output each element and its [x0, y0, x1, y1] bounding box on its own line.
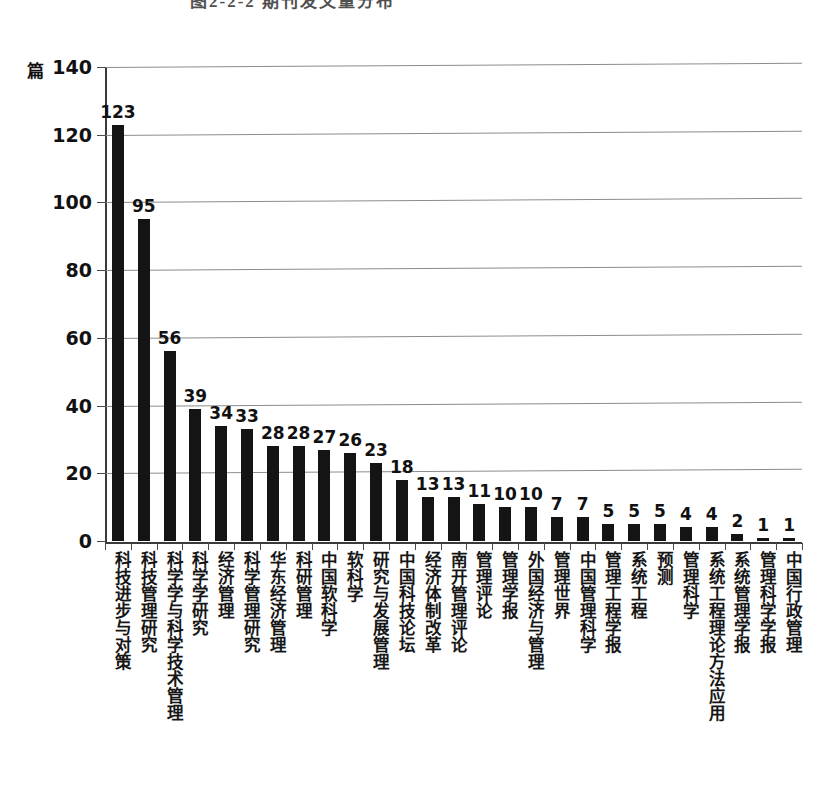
x-tick-mark	[131, 543, 132, 550]
x-tick-mark	[466, 543, 467, 550]
gridline	[105, 266, 802, 271]
bar-value-label: 5	[654, 501, 666, 521]
y-tick-label: 20	[66, 462, 92, 484]
bar: 7	[577, 517, 589, 541]
bar: 10	[499, 507, 511, 541]
y-tick-mark	[97, 270, 106, 271]
x-axis-label: 系统管理学报	[726, 551, 748, 653]
gridline	[105, 334, 802, 339]
x-axis-label: 管理工程学报	[597, 551, 619, 653]
y-tick-label: 120	[52, 124, 92, 146]
bar-value-label: 13	[416, 474, 440, 494]
x-tick-mark	[492, 543, 493, 550]
x-axis-label: 经济体制改革	[417, 551, 439, 653]
bar: 28	[293, 446, 305, 541]
bar: 5	[628, 524, 640, 541]
x-tick-mark	[234, 543, 235, 550]
bar-value-label: 33	[235, 406, 259, 426]
x-tick-mark	[750, 543, 751, 550]
bar-value-label: 56	[158, 328, 182, 348]
bar-value-label: 4	[680, 504, 692, 524]
x-axis-label: 管理学报	[494, 551, 516, 619]
x-tick-mark	[105, 543, 106, 550]
y-tick-label: 40	[66, 395, 92, 417]
x-tick-mark	[312, 543, 313, 550]
x-tick-mark	[647, 543, 648, 550]
x-axis-line	[105, 542, 802, 544]
y-tick-label: 0	[79, 530, 92, 552]
figure-caption: 图2-2-2 期刊发文量分布	[190, 0, 395, 12]
y-tick-mark	[97, 473, 106, 474]
bar: 5	[602, 524, 614, 541]
bar: 95	[138, 219, 150, 541]
bar-value-label: 27	[313, 427, 337, 447]
bar-value-label: 1	[783, 515, 795, 535]
x-axis-label: 科学学与科学技术管理	[159, 551, 181, 721]
x-axis-label: 预测	[649, 551, 671, 585]
bar-value-label: 34	[209, 403, 233, 423]
bar-value-label: 11	[467, 481, 491, 501]
bar: 28	[267, 446, 279, 541]
gridline	[105, 63, 802, 68]
x-tick-mark	[260, 543, 261, 550]
y-tick-mark	[97, 406, 106, 407]
x-axis-label: 中国管理科学	[572, 551, 594, 653]
x-tick-mark	[570, 543, 571, 550]
x-tick-mark	[725, 543, 726, 550]
bar-value-label: 123	[100, 102, 136, 122]
bar: 10	[525, 507, 537, 541]
x-axis-category-labels: 科技进步与对策科技管理研究科学学与科学技术管理科学学研究经济管理科学管理研究华东…	[105, 551, 802, 791]
y-tick-mark	[97, 338, 106, 339]
plot-area: 020406080100120140 123955639343328282726…	[105, 67, 802, 543]
bar-value-label: 95	[132, 196, 156, 216]
bar-value-label: 26	[338, 430, 362, 450]
x-tick-mark	[363, 543, 364, 550]
x-tick-mark	[157, 543, 158, 550]
bar: 13	[448, 497, 460, 541]
bar-value-label: 13	[442, 474, 466, 494]
bar: 18	[396, 480, 408, 541]
bar-value-label: 39	[184, 386, 208, 406]
x-tick-mark	[182, 543, 183, 550]
bar-value-label: 23	[364, 440, 388, 460]
x-tick-mark	[621, 543, 622, 550]
x-axis-label: 外国经济与管理	[520, 551, 542, 670]
y-tick-label: 80	[66, 259, 92, 281]
x-axis-label: 管理世界	[546, 551, 568, 619]
x-tick-mark	[802, 543, 803, 550]
gridline	[105, 198, 802, 203]
x-tick-mark	[389, 543, 390, 550]
bar: 11	[473, 504, 485, 541]
bar-value-label: 28	[287, 423, 311, 443]
x-tick-mark	[337, 543, 338, 550]
bar: 123	[112, 125, 124, 541]
x-axis-label: 系统工程	[623, 551, 645, 619]
x-axis-label: 华东经济管理	[262, 551, 284, 653]
bar: 1	[757, 538, 769, 541]
x-axis-label: 科技进步与对策	[107, 551, 129, 670]
bar-value-label: 7	[551, 494, 563, 514]
x-tick-mark	[441, 543, 442, 550]
bar-value-label: 7	[577, 494, 589, 514]
y-tick-label: 100	[52, 191, 92, 213]
bar: 5	[654, 524, 666, 541]
bar-value-label: 10	[493, 484, 517, 504]
bar: 4	[706, 527, 718, 541]
x-tick-mark	[673, 543, 674, 550]
bar: 39	[189, 409, 201, 541]
x-tick-mark	[286, 543, 287, 550]
bar: 34	[215, 426, 227, 541]
x-axis-label: 经济管理	[210, 551, 232, 619]
y-tick-label: 140	[52, 56, 92, 78]
bar: 56	[164, 351, 176, 541]
x-tick-mark	[699, 543, 700, 550]
x-axis-label: 管理科学学报	[752, 551, 774, 653]
x-axis-label: 中国科技论坛	[391, 551, 413, 653]
bar: 7	[551, 517, 563, 541]
x-axis-label: 软科学	[339, 551, 361, 602]
bar-value-label: 18	[390, 457, 414, 477]
x-tick-mark	[595, 543, 596, 550]
x-axis-label: 科学学研究	[184, 551, 206, 636]
gridline	[105, 130, 802, 135]
y-tick-mark	[97, 202, 106, 203]
